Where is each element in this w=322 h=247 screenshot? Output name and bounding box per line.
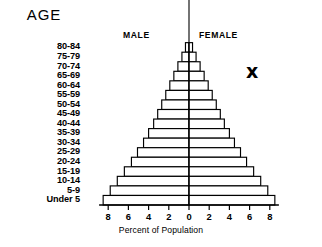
bar-male <box>178 62 189 72</box>
bar-female <box>189 52 196 62</box>
bar-male <box>162 100 189 110</box>
bar-female <box>189 71 204 81</box>
bar-female <box>189 81 208 91</box>
bar-female <box>189 110 220 120</box>
age-group-label: Under 5 <box>0 195 80 204</box>
bar-female <box>189 100 216 110</box>
bar-male <box>131 157 189 167</box>
age-label-column: AGE 80-8475-7970-7465-6960-6455-5950-544… <box>0 0 88 212</box>
x-axis-tick-label: 8 <box>262 211 278 222</box>
age-group-label: 75-79 <box>0 52 80 61</box>
bar-female <box>189 176 261 186</box>
bar-male <box>170 81 189 91</box>
bar-female <box>189 195 275 205</box>
bar-female <box>189 148 241 158</box>
bar-female <box>189 119 224 129</box>
bar-female <box>189 186 268 196</box>
bar-female <box>189 167 254 177</box>
x-axis-tick-label: 6 <box>242 211 258 222</box>
legend-male-label: MALE <box>123 30 150 40</box>
age-axis-heading: AGE <box>0 6 88 23</box>
age-group-label: 10-14 <box>0 176 80 185</box>
age-group-label: 55-59 <box>0 90 80 99</box>
bar-male <box>144 138 189 148</box>
x-axis-title: Percent of Population <box>0 225 322 235</box>
x-axis-tick-label: 2 <box>201 211 217 222</box>
bar-male <box>110 186 189 196</box>
age-group-label: 20-24 <box>0 157 80 166</box>
x-axis-tick-label: 6 <box>120 211 136 222</box>
bar-male <box>117 176 189 186</box>
bar-male <box>124 167 189 177</box>
bar-female <box>189 129 229 139</box>
bar-male <box>182 52 189 62</box>
bar-male <box>103 195 189 205</box>
x-axis-tick-label: 2 <box>161 211 177 222</box>
annotation-x-marker: x <box>246 60 258 82</box>
bar-female <box>189 138 234 148</box>
bar-female <box>189 157 247 167</box>
bar-male <box>166 90 189 100</box>
bar-female <box>189 90 212 100</box>
bar-male <box>158 110 189 120</box>
bar-male <box>154 119 189 129</box>
bar-male <box>137 148 189 158</box>
age-group-label: 65-69 <box>0 71 80 80</box>
population-pyramid-chart: AGE 80-8475-7970-7465-6960-6455-5950-544… <box>0 0 322 247</box>
x-axis-group <box>99 205 279 210</box>
bar-male <box>174 71 189 81</box>
legend-female-label: FEMALE <box>199 30 238 40</box>
x-axis-tick-label: 0 <box>181 211 197 222</box>
x-axis-tick-label: 4 <box>221 211 237 222</box>
age-group-label: 45-49 <box>0 109 80 118</box>
bar-male <box>149 129 189 139</box>
bar-female <box>189 62 200 72</box>
x-axis-tick-label: 8 <box>100 211 116 222</box>
x-axis-tick-label: 4 <box>141 211 157 222</box>
